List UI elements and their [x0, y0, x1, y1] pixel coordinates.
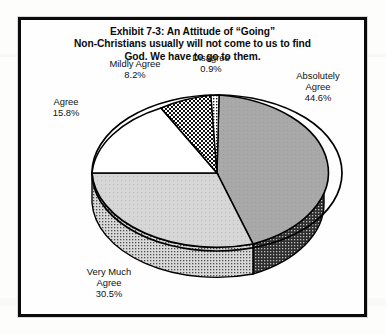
pie-label-disagree: Disagree 0.9% — [173, 52, 249, 74]
pie-label-very-much-agree-name-2: Agree — [59, 277, 159, 288]
pie-label-disagree-value: 0.9% — [173, 63, 249, 74]
pie-label-mildly-agree-name: Mildly Agree — [87, 58, 183, 69]
pie-label-agree: Agree 15.8% — [27, 96, 105, 118]
pie-chart: Mildly Agree 8.2% Disagree 0.9% Absolute… — [21, 20, 364, 314]
pie-label-very-much-agree-name-1: Very Much — [59, 266, 159, 277]
pie-label-absolutely-agree-name-1: Absolutely — [271, 70, 364, 81]
pie-label-very-much-agree-value: 30.5% — [59, 288, 159, 299]
pie-label-agree-value: 15.8% — [27, 107, 105, 118]
pie-label-mildly-agree: Mildly Agree 8.2% — [87, 58, 183, 80]
pie-label-absolutely-agree-value: 44.6% — [271, 92, 364, 103]
pie-label-absolutely-agree: Absolutely Agree 44.6% — [271, 70, 364, 104]
pie-label-agree-name: Agree — [27, 96, 105, 107]
figure-frame: Exhibit 7-3: An Attitude of “Going” Non-… — [18, 17, 367, 317]
pie-label-disagree-name: Disagree — [173, 52, 249, 63]
pie-label-mildly-agree-value: 8.2% — [87, 69, 183, 80]
pie-label-very-much-agree: Very Much Agree 30.5% — [59, 266, 159, 300]
chart-plate: Exhibit 7-3: An Attitude of “Going” Non-… — [21, 20, 364, 314]
pie-label-absolutely-agree-name-2: Agree — [271, 81, 364, 92]
